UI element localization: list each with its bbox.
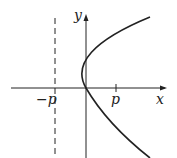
x-axis-label: x bbox=[156, 92, 164, 106]
x-axis-arrow-icon bbox=[160, 86, 167, 91]
y-axis-label: y bbox=[74, 8, 82, 22]
parabola-diagram: y x −p p bbox=[0, 0, 177, 158]
diagram-svg bbox=[0, 0, 177, 158]
y-axis-arrow-icon bbox=[84, 14, 89, 21]
p-label: p bbox=[111, 92, 120, 106]
neg-p-label: −p bbox=[36, 92, 57, 106]
